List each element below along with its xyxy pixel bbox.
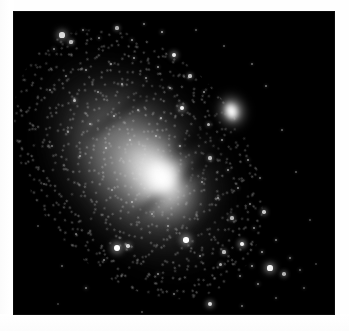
- page-canvas: Grayscale telescope photograph of a larg…: [0, 0, 349, 331]
- page-margin-left: [0, 0, 14, 331]
- astronomical-photograph: Grayscale telescope photograph of a larg…: [14, 12, 334, 314]
- night-sky-background: [14, 12, 334, 314]
- page-margin-bottom: [0, 314, 349, 331]
